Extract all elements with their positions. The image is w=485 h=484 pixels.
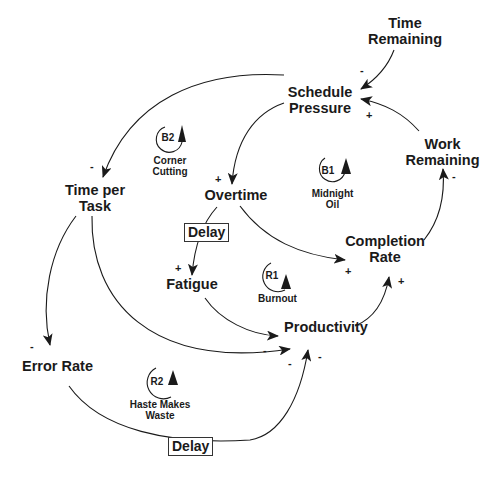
polarity-time-per-task: -: [90, 160, 94, 172]
loop-b2-arrow-icon: [178, 125, 186, 142]
var-line: Completion: [340, 233, 430, 249]
polarity-fatigue: +: [175, 262, 181, 274]
polarity-productivity-from-fatigue: -: [263, 344, 267, 356]
var-line: Task: [55, 198, 135, 214]
variable-error-rate: Error Rate: [20, 358, 95, 374]
loop-b1-arrow-icon: [341, 158, 351, 174]
var-line: Work: [400, 136, 485, 152]
loop-name-line: Midnight: [305, 188, 360, 199]
polarity-completion-from-overtime: +: [345, 265, 351, 277]
var-line: Fatigue: [162, 276, 222, 292]
polarity-work-remaining: +: [366, 109, 372, 121]
loop-r1-arrow-icon: [281, 274, 291, 289]
loop-name-line: Cutting: [145, 166, 195, 177]
polarity-productivity-from-error-rate: -: [318, 350, 322, 362]
polarity-completion-from-productivity: +: [398, 275, 404, 287]
link-schedule-pressure-to-overtime: [232, 103, 284, 184]
var-line: Remaining: [355, 31, 455, 47]
var-line: Overtime: [196, 187, 276, 203]
loop-name-line: Waste: [125, 410, 195, 421]
loop-name-line: Oil: [305, 199, 360, 210]
loop-b2-id: B2: [158, 132, 178, 143]
var-line: Error Rate: [20, 358, 95, 374]
delay-box-error-productivity: Delay: [168, 437, 213, 456]
loop-b1-name: Midnight Oil: [305, 188, 360, 210]
var-line: Schedule: [280, 84, 360, 100]
loop-r1-id: R1: [262, 270, 282, 281]
loop-b2-name: Corner Cutting: [145, 155, 195, 177]
var-line: Time per: [55, 182, 135, 198]
variable-productivity: Productivity: [276, 319, 376, 335]
polarity-error-rate: -: [30, 340, 34, 352]
loop-r1-name: Burnout: [250, 293, 305, 304]
loop-name-line: Burnout: [250, 293, 305, 304]
loop-r2-arrow-icon: [168, 370, 178, 385]
var-line: Remaining: [400, 152, 485, 168]
delay-box-overtime-fatigue: Delay: [184, 223, 229, 242]
var-line: Rate: [340, 249, 430, 265]
variable-time-per-task: Time per Task: [55, 182, 135, 214]
polarity-time-remaining: -: [360, 64, 364, 76]
variable-time-remaining: Time Remaining: [355, 15, 455, 47]
variable-work-remaining: Work Remaining: [400, 136, 485, 168]
loop-r2-id: R2: [147, 376, 167, 387]
var-line: Productivity: [276, 319, 376, 335]
polarity-overtime: +: [215, 173, 221, 185]
polarity-work-remaining-from-completion: -: [452, 170, 456, 182]
variable-fatigue: Fatigue: [162, 276, 222, 292]
polarity-productivity-from-time-per-task: -: [288, 357, 292, 369]
loop-r2-name: Haste Makes Waste: [125, 399, 195, 421]
var-line: Pressure: [280, 100, 360, 116]
link-time-per-task-to-error-rate: [46, 216, 76, 345]
link-error-rate-to-productivity: [69, 350, 308, 441]
var-line: Time: [355, 15, 455, 31]
loop-b1-id: B1: [318, 165, 338, 176]
link-overtime-to-completion-rate: [240, 206, 345, 260]
link-completion-rate-to-work-remaining: [424, 169, 443, 240]
variable-schedule-pressure: Schedule Pressure: [280, 84, 360, 116]
variable-overtime: Overtime: [196, 187, 276, 203]
variable-completion-rate: Completion Rate: [340, 233, 430, 265]
link-time-remaining-to-schedule-pressure: [361, 50, 394, 89]
loop-name-line: Haste Makes: [125, 399, 195, 410]
loop-name-line: Corner: [145, 155, 195, 166]
